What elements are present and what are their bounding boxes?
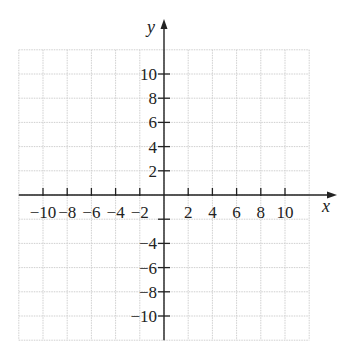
y-tick-label: 10: [140, 65, 157, 84]
y-tick-label: 2: [149, 162, 158, 181]
x-tick-label: −6: [82, 203, 100, 222]
y-tick-label: 8: [149, 89, 158, 108]
y-tick-label: −6: [139, 259, 157, 278]
y-tick-label: −8: [139, 283, 157, 302]
y-tick-label: 6: [149, 113, 158, 132]
x-tick-label: −4: [107, 203, 126, 222]
y-tick-label: −4: [139, 234, 158, 253]
x-tick-label: 10: [277, 203, 294, 222]
x-tick-label: −10: [30, 203, 57, 222]
y-tick-label: 4: [149, 138, 158, 157]
y-tick-label: −10: [130, 307, 157, 326]
x-tick-label: 6: [232, 203, 241, 222]
y-axis-label: y: [145, 17, 155, 37]
coordinate-plane: −10−8−6−4−2246810 108642−4−6−8−10 x y: [0, 0, 355, 351]
x-tick-label: −2: [131, 203, 149, 222]
x-axis-ticks: −10−8−6−4−2246810: [30, 188, 294, 222]
x-tick-label: −8: [58, 203, 76, 222]
x-axis-label: x: [321, 196, 330, 216]
y-axis-arrow-icon: [161, 19, 168, 29]
x-tick-label: 4: [208, 203, 217, 222]
x-tick-label: 2: [184, 203, 193, 222]
x-tick-label: 8: [257, 203, 266, 222]
